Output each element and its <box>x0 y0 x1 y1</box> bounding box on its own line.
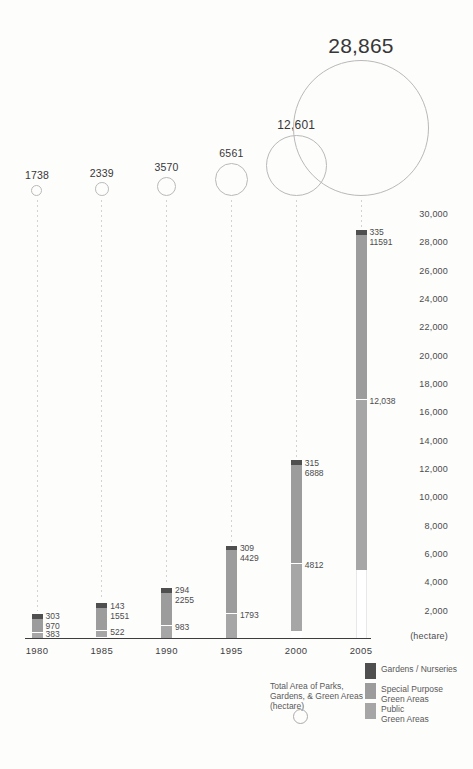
legend-label-1: Gardens / Nurseries <box>381 664 471 674</box>
series-legend: Gardens / NurseriesSpecial Purpose Green… <box>0 0 473 769</box>
legend-swatch-2 <box>365 683 376 699</box>
legend-label-3: Public Green Areas <box>381 704 471 724</box>
legend-swatch-1 <box>365 663 376 679</box>
legend-swatch-3 <box>365 703 376 719</box>
legend-label-2: Special Purpose Green Areas <box>381 684 471 704</box>
chart-canvas: 173823393570656112,60128,865 30397038314… <box>0 0 473 769</box>
